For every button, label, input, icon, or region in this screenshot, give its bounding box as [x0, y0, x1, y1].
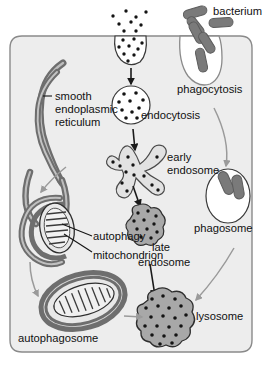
cell-pathway-diagram: bacterium phagocytosis endocytosis smoot…	[0, 0, 268, 376]
arrow-autophagosome-to-lysosome	[124, 316, 142, 317]
label-reticulum: reticulum	[55, 116, 100, 128]
label-endoplasmic: endoplasmic	[55, 103, 118, 115]
label-late: late	[152, 241, 170, 253]
label-phagosome: phagosome	[194, 222, 252, 234]
label-phagocytosis: phagocytosis	[177, 83, 243, 95]
bacterium-rod-3	[209, 17, 233, 27]
label-endosome: endosome	[167, 164, 219, 176]
label-early: early	[167, 151, 192, 163]
label-autophagy: autophagy	[93, 230, 146, 242]
label-lysosome: lysosome	[196, 310, 243, 322]
phagosome	[206, 169, 250, 223]
label-smooth: smooth	[55, 90, 92, 102]
label-bacterium: bacterium	[213, 5, 262, 17]
extracellular-ligands	[111, 9, 147, 32]
label-autophagosome: autophagosome	[18, 332, 98, 344]
label-late-endosome: endosome	[138, 256, 190, 268]
diagram-canvas: bacterium phagocytosis endocytosis smoot…	[0, 0, 268, 376]
label-endocytosis: endocytosis	[141, 109, 200, 121]
